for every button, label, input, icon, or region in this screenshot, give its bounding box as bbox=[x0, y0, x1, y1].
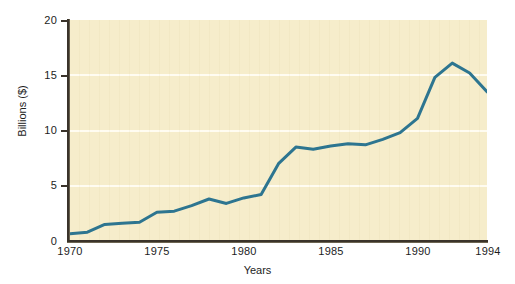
x-tick-label-1990: 1990 bbox=[405, 245, 430, 257]
y-tick-10 bbox=[61, 130, 68, 132]
plot-area bbox=[70, 20, 487, 241]
y-tick-label-10: 10 bbox=[44, 124, 57, 136]
x-tick-label-1970: 1970 bbox=[57, 245, 82, 257]
y-tick-label-0: 0 bbox=[51, 235, 57, 247]
chart-figure: 20 15 10 5 0 1970 1975 1980 1985 1990 19… bbox=[0, 0, 515, 284]
line-series bbox=[70, 20, 487, 241]
y-axis-title: Billions ($) bbox=[16, 66, 28, 156]
y-tick-20 bbox=[61, 20, 68, 22]
x-tick-label-1985: 1985 bbox=[318, 245, 343, 257]
y-tick-5 bbox=[61, 185, 68, 187]
x-axis-title: Years bbox=[0, 264, 515, 276]
x-tick-label-1980: 1980 bbox=[231, 245, 256, 257]
y-tick-label-5: 5 bbox=[51, 179, 57, 191]
y-tick-15 bbox=[61, 75, 68, 77]
y-tick-label-15: 15 bbox=[44, 69, 57, 81]
series-polyline bbox=[70, 63, 487, 234]
y-tick-label-20: 20 bbox=[44, 14, 57, 26]
x-tick-label-1975: 1975 bbox=[144, 245, 169, 257]
x-tick-label-1994: 1994 bbox=[475, 245, 500, 257]
